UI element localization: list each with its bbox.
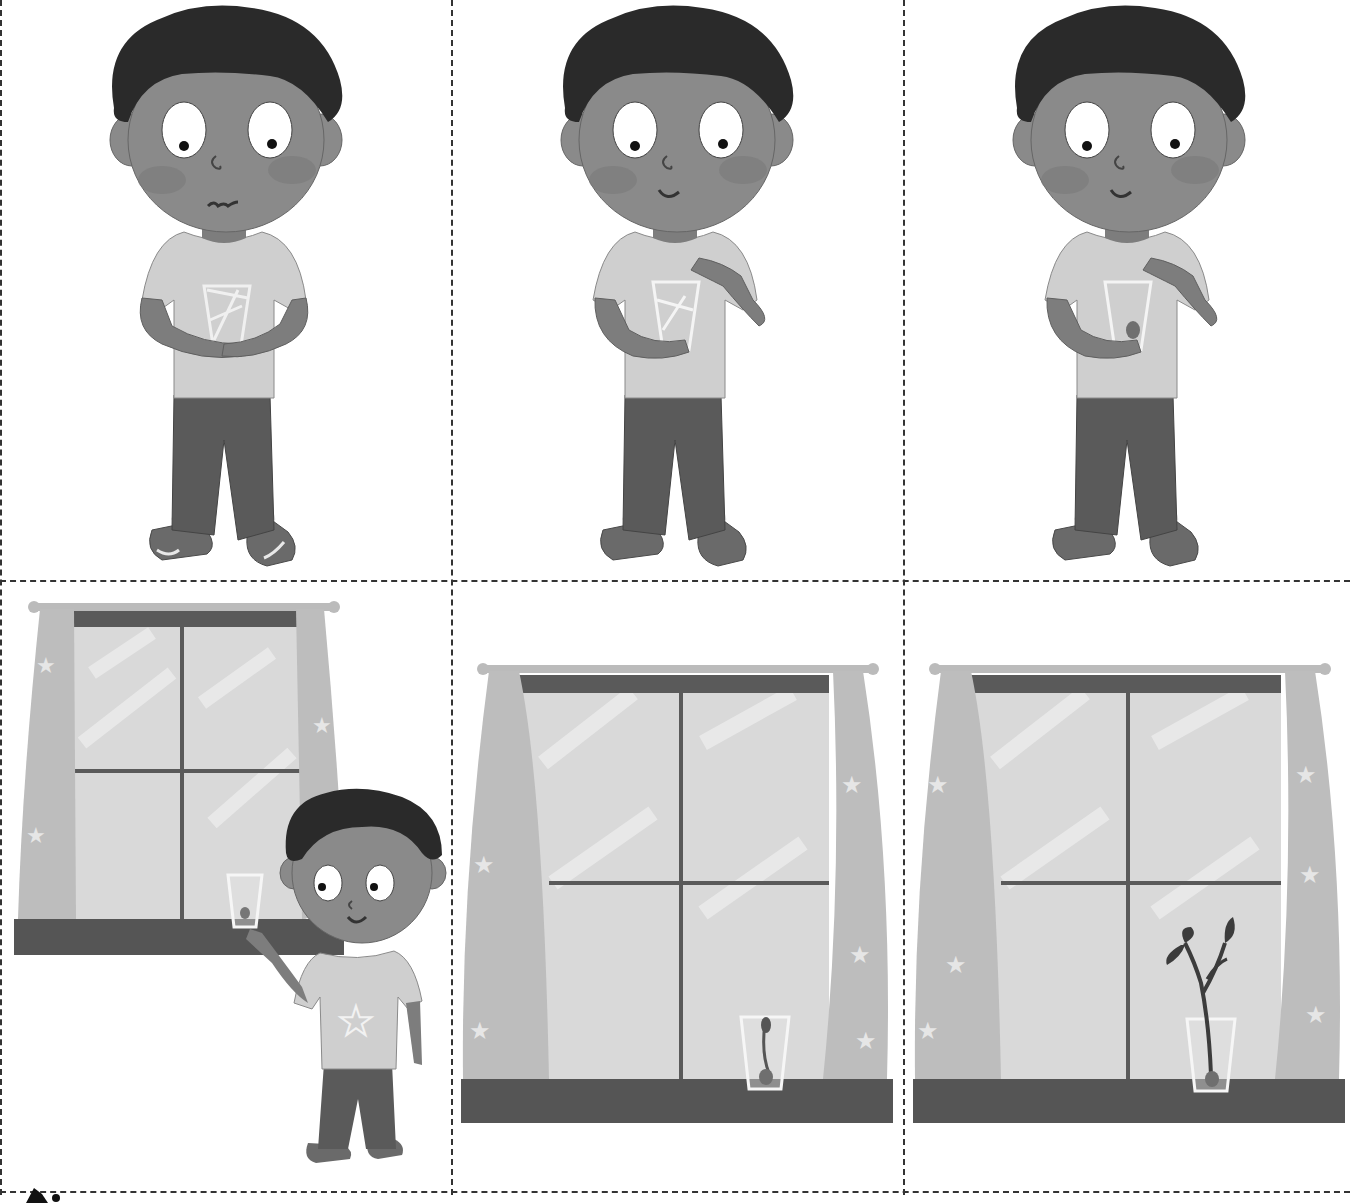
svg-text:★: ★ <box>312 713 332 738</box>
cut-line-bottom <box>0 1191 1350 1193</box>
svg-text:★: ★ <box>841 771 863 799</box>
svg-text:★: ★ <box>917 1017 939 1045</box>
svg-text:★: ★ <box>855 1027 877 1055</box>
svg-text:★: ★ <box>1305 1001 1327 1029</box>
card-1-boy-holding-empty-glass <box>2 0 450 578</box>
trousers <box>1075 395 1177 540</box>
boy-illustration <box>2 0 450 578</box>
glass-with-sprouting-seed <box>741 1017 789 1089</box>
svg-text:★: ★ <box>849 941 871 969</box>
curtain-rod <box>935 665 1325 673</box>
svg-text:★: ★ <box>26 823 46 848</box>
worksheet-page: ★ ★ ★ ★ ★ <box>0 0 1350 1203</box>
card-5-seed-sprouting-on-windowsill: ★ ★ ★ ★ ★ <box>453 583 901 1189</box>
window-top-frame <box>58 611 306 627</box>
windowsill <box>913 1079 1345 1123</box>
head <box>1013 6 1245 232</box>
card-3-boy-holding-glass-with-seed <box>905 0 1350 578</box>
svg-text:★: ★ <box>945 951 967 979</box>
trousers <box>623 395 725 540</box>
window-mullion-vertical <box>180 627 184 927</box>
window-scene: ★ ★ ★ ★ ★ <box>2 583 450 1189</box>
window-top-frame <box>961 675 1281 693</box>
curtain-right <box>823 671 888 1079</box>
windowsill <box>14 919 344 955</box>
card-6-plant-growing-on-windowsill: ★ ★ ★ ★ ★ ★ <box>905 583 1350 1189</box>
windowsill <box>461 1079 893 1123</box>
svg-text:★: ★ <box>469 1017 491 1045</box>
boy-illustration <box>905 0 1350 578</box>
card-4-boy-placing-glass-on-windowsill: ★ ★ ★ ★ ★ <box>2 583 450 1189</box>
window-scene: ★ ★ ★ ★ ★ <box>453 583 901 1189</box>
window-mullion-vertical <box>1126 693 1130 1083</box>
window-mullion-horizontal <box>1001 881 1281 885</box>
window-scene: ★ ★ ★ ★ ★ ★ <box>905 583 1350 1189</box>
scissors-icon <box>22 1186 62 1203</box>
window-mullion-horizontal <box>58 769 306 773</box>
svg-text:★: ★ <box>36 653 56 678</box>
boy-illustration <box>453 0 901 578</box>
head <box>110 6 342 232</box>
window-mullion-horizontal <box>549 881 829 885</box>
trousers <box>318 1063 396 1149</box>
curtain-rod <box>483 665 873 673</box>
head <box>561 6 793 232</box>
svg-text:★: ★ <box>927 771 949 799</box>
svg-text:★: ★ <box>338 998 374 1044</box>
glass-with-seed <box>228 875 262 927</box>
cut-line-middle <box>0 580 1350 582</box>
curtain-rod <box>34 603 334 611</box>
window-mullion-vertical <box>679 693 683 1083</box>
window-top-frame <box>509 675 829 693</box>
svg-text:★: ★ <box>473 851 495 879</box>
card-2-boy-dropping-seed <box>453 0 901 578</box>
trousers <box>172 395 274 540</box>
svg-text:★: ★ <box>1299 861 1321 889</box>
svg-text:★: ★ <box>1295 761 1317 789</box>
